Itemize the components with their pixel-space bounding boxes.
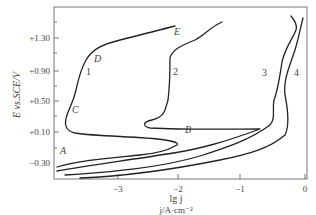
x-axis-unit: j/A·cm⁻² bbox=[158, 205, 192, 215]
point-label-d: D bbox=[93, 53, 102, 64]
curve-label-1: 1 bbox=[86, 66, 91, 77]
x-tick-label: −3 bbox=[113, 184, 123, 194]
curve-label-2: 2 bbox=[173, 66, 178, 77]
x-tick-label: 0 bbox=[303, 184, 308, 194]
y-tick-label: +0.10 bbox=[29, 127, 50, 137]
x-axis-title: lg j bbox=[169, 193, 182, 204]
x-tick-label: −1 bbox=[235, 184, 245, 194]
y-axis-title: E vs.SCE/V bbox=[11, 70, 22, 119]
y-tick-label: −0.30 bbox=[29, 158, 50, 168]
y-tick-label: +1.30 bbox=[29, 33, 50, 43]
y-tick-label: +0.90 bbox=[29, 66, 50, 76]
x-axis bbox=[118, 174, 305, 179]
point-label-a: A bbox=[59, 145, 67, 156]
curve-2 bbox=[57, 22, 260, 171]
point-label-b: B bbox=[185, 124, 191, 135]
point-label-c: C bbox=[72, 104, 79, 115]
point-label-e: E bbox=[173, 26, 180, 37]
y-axis bbox=[54, 22, 59, 148]
polarization-chart: +1.30 +0.90 +0.50 +0.10 −0.30 −3 −2 −1 0… bbox=[0, 0, 316, 215]
curve-3 bbox=[65, 16, 297, 175]
plot-frame bbox=[54, 7, 307, 179]
curve-label-4: 4 bbox=[294, 67, 299, 78]
y-tick-label: +0.50 bbox=[29, 96, 50, 106]
curve-1 bbox=[57, 26, 178, 167]
curve-label-3: 3 bbox=[262, 67, 267, 78]
